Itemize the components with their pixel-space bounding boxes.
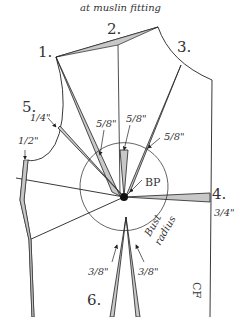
- measurement-1-2: 1/2": [18, 135, 39, 146]
- label-point-6: 6.: [87, 291, 101, 309]
- label-point-1: 1.: [38, 43, 52, 61]
- label-cf: CF: [190, 282, 203, 298]
- label-bp: BP: [145, 176, 161, 189]
- measurement-5-8-right: 5/8": [164, 131, 185, 142]
- measurement-3-8-right: 3/8": [138, 266, 159, 277]
- bodice-pattern-diagram: 1. 2. 3. 4. 5. 6. 1/4" 1/2" 5/8" 5/8" 5/…: [0, 0, 241, 317]
- measurement-5-8-left: 5/8": [96, 118, 117, 129]
- label-point-2: 2.: [107, 20, 121, 38]
- measurement-5-8-center: 5/8": [126, 113, 147, 124]
- measurement-3-4: 3/4": [214, 207, 235, 218]
- label-point-3: 3.: [177, 38, 191, 56]
- label-point-4: 4.: [212, 185, 226, 203]
- bust-point-dot: [120, 193, 128, 201]
- measurement-3-8-left: 3/8": [88, 266, 109, 277]
- measurement-1-4: 1/4": [30, 112, 51, 123]
- center-guide-line: [118, 45, 120, 195]
- bodice-outline: [16, 27, 212, 317]
- darts: [56, 57, 210, 317]
